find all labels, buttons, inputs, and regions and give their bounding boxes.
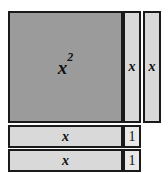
unit-tile-2: 1 [123, 149, 141, 172]
x-tile-bottom-1: x [8, 125, 123, 148]
x-squared-tile: x2 [8, 11, 123, 123]
unit-tile-1: 1 [123, 125, 141, 148]
x-tile-bottom-2: x [8, 149, 123, 172]
x-tile-right-1-label: x [129, 60, 136, 74]
x-squared-label: x2 [58, 58, 74, 77]
x-tile-right-1: x [123, 11, 141, 123]
unit-tile-2-label: 1 [129, 154, 136, 168]
x-squared-exponent: 2 [67, 50, 73, 64]
x-tile-bottom-2-label: x [62, 154, 69, 168]
x-tile-right-2-label: x [149, 60, 156, 74]
algebra-tiles-diagram: x2 x x x x 1 1 [0, 0, 168, 173]
x-squared-base: x [58, 57, 68, 78]
x-tile-bottom-1-label: x [62, 130, 69, 144]
x-tile-right-2: x [143, 11, 161, 123]
unit-tile-1-label: 1 [129, 130, 136, 144]
